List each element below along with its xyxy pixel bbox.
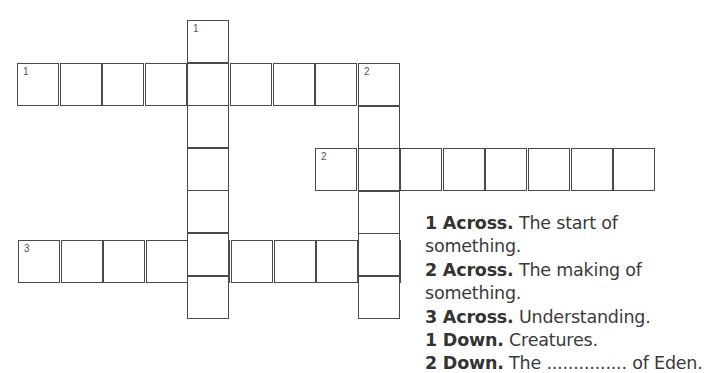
clue-label: 2 Across. <box>425 260 514 280</box>
clue-text: The ............... of Eden. <box>509 353 703 373</box>
clue-1-across: 1 Across. The start of something. <box>425 212 718 259</box>
crossword-cell[interactable] <box>358 106 400 149</box>
crossword-cell[interactable] <box>274 240 316 283</box>
crossword-cell[interactable] <box>528 148 570 191</box>
crossword-cell[interactable] <box>187 276 229 319</box>
crossword-cell[interactable] <box>61 240 103 283</box>
crossword-cell[interactable] <box>273 63 315 106</box>
clue-1-down: 1 Down. Creatures. <box>425 329 718 352</box>
crossword-cell[interactable] <box>230 63 272 106</box>
crossword-cell[interactable] <box>187 148 229 191</box>
clue-text: Creatures. <box>509 330 598 350</box>
crossword-cell[interactable]: 1 <box>17 63 59 106</box>
clue-2-down: 2 Down. The ............... of Eden. <box>425 352 718 373</box>
crossword-cell[interactable]: 3 <box>18 240 60 283</box>
clue-label: 3 Across. <box>425 307 514 327</box>
clue-number: 3 <box>24 243 30 254</box>
crossword-cell[interactable]: 1 <box>187 20 229 63</box>
clue-label: 2 Down. <box>425 353 504 373</box>
crossword-cell[interactable] <box>187 63 229 106</box>
crossword-cell[interactable] <box>443 148 485 191</box>
crossword-cell[interactable] <box>145 63 187 106</box>
crossword-cell[interactable] <box>187 190 229 233</box>
crossword-cell[interactable] <box>187 233 229 276</box>
crossword-cell[interactable] <box>315 63 357 106</box>
clue-label: 1 Down. <box>425 330 504 350</box>
crossword-cell[interactable] <box>187 105 229 148</box>
clue-2-across: 2 Across. The making of something. <box>425 259 718 306</box>
crossword-cell[interactable] <box>485 148 527 191</box>
crossword-cell[interactable] <box>358 148 400 191</box>
clue-label: 1 Across. <box>425 213 514 233</box>
crossword-cell[interactable] <box>358 233 400 276</box>
crossword-cell[interactable] <box>102 63 144 106</box>
clue-number: 2 <box>364 66 370 77</box>
crossword-cell[interactable] <box>146 240 188 283</box>
crossword-cell[interactable] <box>231 240 273 283</box>
crossword-cell[interactable] <box>571 148 613 191</box>
crossword-cell[interactable] <box>316 240 358 283</box>
clue-list: 1 Across. The start of something. 2 Acro… <box>425 212 718 373</box>
clue-number: 2 <box>321 151 327 162</box>
crossword-cell[interactable] <box>60 63 102 106</box>
crossword-cell[interactable]: 2 <box>358 63 400 106</box>
clue-3-across: 3 Across. Understanding. <box>425 306 718 329</box>
crossword-cell[interactable] <box>400 148 442 191</box>
crossword-cell[interactable] <box>103 240 145 283</box>
crossword-cell[interactable]: 2 <box>315 148 357 191</box>
clue-number: 1 <box>193 23 199 34</box>
clue-text: Understanding. <box>519 307 651 327</box>
crossword-cell[interactable] <box>358 191 400 234</box>
crossword-cell[interactable] <box>358 276 400 319</box>
crossword-cell[interactable] <box>613 148 655 191</box>
clue-number: 1 <box>23 66 29 77</box>
